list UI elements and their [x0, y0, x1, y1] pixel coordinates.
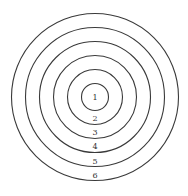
- ring-label-5: 5: [92, 157, 97, 166]
- ring-label-6: 6: [92, 171, 97, 180]
- ring-label-4: 4: [92, 142, 97, 151]
- ring-label-1: 1: [92, 93, 97, 102]
- ring-label-3: 3: [92, 128, 97, 137]
- ring-label-2: 2: [92, 114, 97, 123]
- target-diagram: 1 2 3 4 5 6: [0, 0, 188, 196]
